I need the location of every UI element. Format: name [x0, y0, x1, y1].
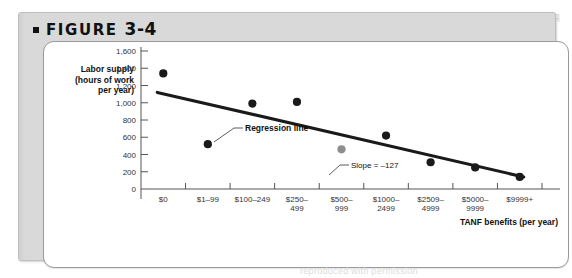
x-axis-tick-label: $250–	[286, 195, 309, 204]
figure-label: FIGURE	[46, 21, 118, 39]
x-axis-tick-label: $5000–	[462, 195, 489, 204]
x-axis-tick-label: 499	[290, 204, 304, 213]
x-axis-tick-label: $9999+	[506, 195, 533, 204]
data-point	[471, 163, 479, 171]
regression-line-leader	[214, 128, 243, 142]
data-point	[204, 140, 212, 148]
x-axis-tick-label: 4999	[422, 204, 440, 213]
y-axis-tick-label: 1,400	[116, 64, 137, 73]
data-point	[382, 131, 390, 139]
x-axis-tick-label: $500–	[330, 195, 353, 204]
slope-leader	[329, 165, 349, 175]
regression-line-label: Regression line	[245, 123, 309, 133]
y-axis-tick-label: 0	[132, 185, 137, 194]
figure-title: FIGURE 3-4	[46, 19, 157, 39]
x-axis-title: TANF benefits (per year)	[460, 217, 558, 227]
figure-page: FIGURE 3-4 FIGURE 3-4 Labor supply (hour…	[0, 0, 572, 278]
x-axis-tick-label: $1–99	[197, 195, 220, 204]
regression-line	[157, 92, 523, 177]
x-axis-tick-label: 2499	[377, 204, 395, 213]
data-point	[427, 158, 435, 166]
y-axis-tick-label: 1,200	[116, 82, 137, 91]
figure-card: FIGURE 3-4 Labor supply (hours of work p…	[18, 12, 556, 261]
y-axis-tick-label: 200	[123, 168, 137, 177]
y-axis-tick-label: 600	[123, 133, 137, 142]
figure-header: FIGURE 3-4	[33, 19, 157, 39]
data-point	[293, 98, 301, 106]
x-axis-tick-label: $100–249	[235, 195, 271, 204]
data-point	[337, 145, 345, 153]
data-point	[159, 69, 167, 77]
data-point	[516, 173, 524, 181]
square-bullet-icon	[33, 27, 39, 33]
x-axis-tick-label: 999	[335, 204, 349, 213]
figure-number: 3-4	[125, 19, 157, 39]
x-axis-tick-label: $1000–	[373, 195, 400, 204]
x-axis-tick-label: $0	[159, 195, 168, 204]
y-axis-tick-label: 800	[123, 116, 137, 125]
y-axis-tick-label: 1,000	[116, 99, 137, 108]
slope-label: Slope = –127	[351, 161, 399, 170]
x-axis-tick-label: 9999	[466, 204, 484, 213]
x-axis-tick-label: $2509–	[417, 195, 444, 204]
y-axis-tick-label: 400	[123, 151, 137, 160]
chart-panel: Labor supply (hours of work per year) 02…	[43, 41, 569, 268]
y-axis-tick-label: 1,600	[116, 47, 137, 56]
scatter-chart: 02004006008001,0001,2001,4001,600$0$1–99…	[44, 42, 568, 267]
data-point	[248, 100, 256, 108]
